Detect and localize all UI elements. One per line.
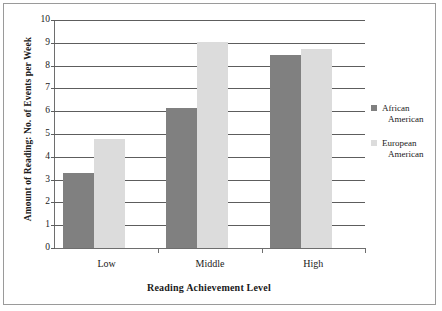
y-tick-label: 8 [24,61,50,71]
bar [301,49,332,249]
y-tick-label: 2 [24,198,50,208]
bar [63,173,94,248]
y-tick-label: 7 [24,84,50,94]
x-axis-title: Reading Achievement Level [54,282,364,293]
y-tick-mark [51,248,55,249]
bar-group [262,20,365,248]
legend-label: African [382,103,409,113]
y-tick-label: 5 [24,129,50,139]
bar [166,108,197,248]
x-category-label: Middle [165,258,255,269]
chart-frame: Amount of Reading: No. of Events per Wee… [3,3,436,305]
x-tick-mark [262,248,263,253]
bar-group [158,20,261,248]
y-tick-label: 0 [24,243,50,253]
chart-legend: AfricanAmericanEuropeanAmerican [371,103,437,173]
y-tick-label: 4 [24,152,50,162]
bar [270,55,301,248]
legend-item[interactable]: EuropeanAmerican [371,138,437,160]
x-category-label: High [268,258,358,269]
legend-label-line2: American [382,114,437,125]
legend-item[interactable]: AfricanAmerican [371,103,437,125]
y-tick-label: 9 [24,38,50,48]
legend-swatch-icon [371,105,377,111]
y-tick-label: 3 [24,175,50,185]
y-tick-label: 6 [24,106,50,116]
bar-group [55,20,158,248]
y-tick-label: 10 [24,15,50,25]
legend-swatch-icon [371,140,377,146]
plot-area: 012345678910 LowMiddleHigh [54,20,365,249]
x-category-label: Low [62,258,152,269]
legend-label: European [382,138,416,148]
bars-layer [55,20,365,248]
bar [94,139,125,248]
x-tick-mark [365,248,366,253]
y-tick-label: 1 [24,220,50,230]
bar [197,42,228,248]
legend-label-line2: American [382,149,437,160]
x-tick-mark [158,248,159,253]
